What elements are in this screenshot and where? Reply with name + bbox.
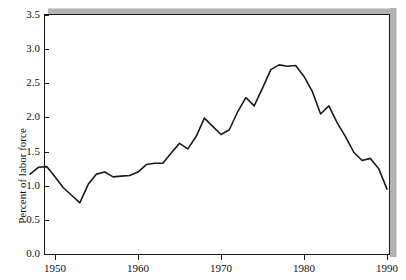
y-tick-label: 0.0	[0, 248, 40, 259]
x-tick-mark	[304, 255, 305, 260]
series-line-unemployment	[44, 14, 390, 255]
x-tick-label: 1970	[191, 263, 251, 274]
x-tick-label: 1960	[108, 263, 168, 274]
y-tick-label: 3.0	[0, 43, 40, 54]
y-tick-label: 1.5	[0, 146, 40, 157]
y-tick-label: 3.5	[0, 9, 40, 20]
chart-figure: Percent of labor force 0.00.51.01.52.02.…	[0, 0, 406, 280]
x-tick-mark	[55, 255, 56, 260]
x-tick-label: 1950	[25, 263, 85, 274]
x-tick-mark	[138, 255, 139, 260]
x-tick-mark	[387, 255, 388, 260]
x-tick-label: 1980	[274, 263, 334, 274]
y-tick-label: 1.0	[0, 180, 40, 191]
y-tick-label: 0.5	[0, 214, 40, 225]
x-tick-mark	[221, 255, 222, 260]
y-tick-label: 2.0	[0, 111, 40, 122]
x-tick-label: 1990	[357, 263, 406, 274]
y-tick-label: 2.5	[0, 77, 40, 88]
series-polyline	[30, 65, 387, 203]
frame-shadow-right	[390, 8, 397, 257]
